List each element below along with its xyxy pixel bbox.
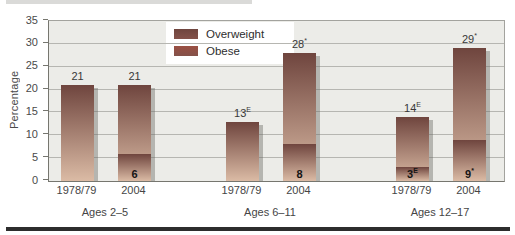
x-tick-label-year: 2004 — [269, 184, 329, 196]
x-tick-label-year: 1978/79 — [212, 184, 272, 196]
y-tick-label: 30 — [26, 37, 38, 48]
total-value-label: 29* — [450, 33, 490, 45]
total-value-label: 21 — [58, 70, 98, 82]
gridline — [49, 66, 504, 67]
x-tick-label-year: 1978/79 — [382, 184, 442, 196]
obese-value-label: 3E — [396, 168, 429, 180]
bar-ages-2–5-2004: 6 — [118, 85, 151, 181]
y-tick-label: 20 — [26, 83, 38, 94]
total-value-label: 14E — [393, 102, 433, 114]
x-tick-label-year: 2004 — [439, 184, 499, 196]
y-tick-label: 10 — [26, 129, 38, 140]
x-group-label: Ages 12–17 — [390, 206, 490, 218]
bar-ages-2–5-1978-79 — [61, 85, 94, 181]
y-tick-label: 0 — [32, 175, 38, 186]
y-axis: 05101520253035 — [0, 20, 48, 180]
total-value-label: 13E — [223, 107, 263, 119]
bar-ages-12–17-2004: 9* — [453, 48, 486, 181]
obese-value-label: 9* — [453, 168, 486, 180]
x-tick-label-year: 1978/79 — [47, 184, 107, 196]
y-tick-label: 35 — [26, 15, 38, 26]
x-tick-label-year: 2004 — [104, 184, 164, 196]
y-tick-label: 5 — [32, 152, 38, 163]
obese-swatch — [174, 46, 198, 56]
x-group-label: Ages 6–11 — [220, 206, 320, 218]
y-tick-label: 15 — [26, 106, 38, 117]
bar-ages-12–17-1978-79: 3E — [396, 117, 429, 181]
gridline — [49, 43, 504, 44]
overweight-swatch — [174, 29, 198, 39]
obese-value-label: 8 — [283, 168, 316, 180]
top-strip-decoration — [6, 0, 252, 4]
bar-ages-6–11-2004: 8 — [283, 53, 316, 181]
total-value-label: 28* — [280, 38, 320, 50]
plot-area: Overweight Obese 2162113E828*3E14E9*29* — [48, 20, 505, 182]
legend-label-overweight: Overweight — [206, 28, 264, 40]
total-value-label: 21 — [115, 70, 155, 82]
bar-ages-6–11-1978-79 — [226, 122, 259, 181]
legend-label-obese: Obese — [206, 45, 240, 57]
legend-item-obese: Obese — [174, 45, 286, 57]
legend-item-overweight: Overweight — [174, 28, 286, 40]
obese-value-label: 6 — [118, 168, 151, 180]
y-tick-label: 25 — [26, 60, 38, 71]
bottom-rule-decoration — [6, 227, 510, 231]
x-group-label: Ages 2–5 — [55, 206, 155, 218]
